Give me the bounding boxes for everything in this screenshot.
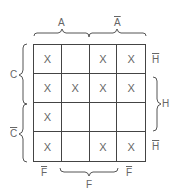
- cell-r4-c3: X: [90, 132, 118, 161]
- cell-r1-c4: X: [117, 45, 145, 74]
- karnaugh-grid: X X X X X X X X X X X: [33, 44, 146, 162]
- label-c: C: [10, 70, 17, 80]
- left-brace-c: [19, 44, 27, 104]
- cell-r1-c1: X: [34, 45, 62, 74]
- cell-r3-c2: [62, 103, 90, 132]
- cell-r2-c2: X: [62, 74, 90, 103]
- label-a-bar: A: [114, 18, 121, 28]
- cell-r4-c2: [62, 132, 90, 161]
- bottom-brace-f: [60, 168, 118, 176]
- label-a: A: [58, 18, 65, 28]
- label-h-bar-bottom: H: [152, 142, 159, 152]
- label-f-bar-right: F: [126, 168, 132, 178]
- cell-r2-c1: X: [34, 74, 62, 103]
- top-brace-a-bar: [89, 29, 146, 37]
- label-h: H: [162, 99, 169, 109]
- cell-r3-c3: [90, 103, 118, 132]
- cell-r2-c4: X: [117, 74, 145, 103]
- cell-r3-c1: X: [34, 103, 62, 132]
- cell-r3-c4: [117, 103, 145, 132]
- cell-r1-c3: X: [90, 45, 118, 74]
- label-f: F: [86, 180, 92, 190]
- label-f-bar-left: F: [41, 168, 47, 178]
- label-c-bar: C: [10, 129, 17, 139]
- top-brace-a: [34, 29, 89, 37]
- label-h-bar-top: H: [152, 55, 159, 65]
- cell-r4-c1: X: [34, 132, 62, 161]
- right-brace-h: [153, 77, 161, 131]
- left-brace-c-bar: [19, 104, 27, 162]
- cell-r1-c2: [62, 45, 90, 74]
- cell-r4-c4: X: [117, 132, 145, 161]
- cell-r2-c3: X: [90, 74, 118, 103]
